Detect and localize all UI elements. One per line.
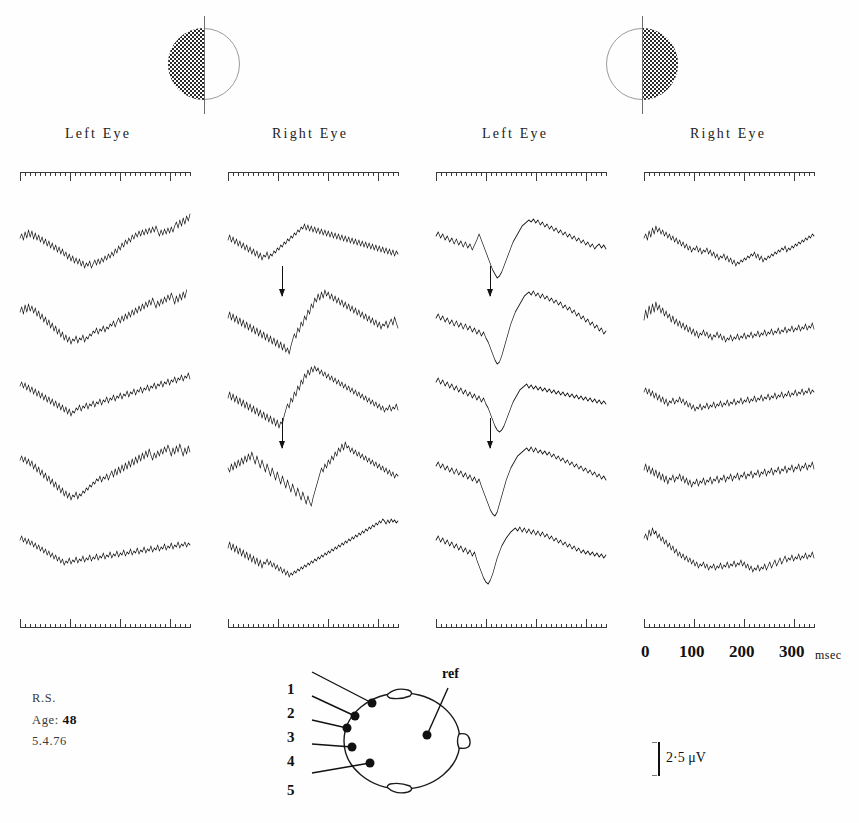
minor-tick [40, 624, 41, 628]
calibration-bar [658, 742, 660, 776]
minor-tick [233, 624, 234, 628]
left-ear-marker [387, 689, 411, 699]
major-tick [328, 619, 329, 628]
minor-tick [649, 624, 650, 628]
minor-tick [481, 624, 482, 628]
figure-canvas: Left Eye Right Eye Left Eye Right Eye 0 … [0, 0, 859, 823]
electrode-dot-4 [348, 743, 357, 752]
minor-tick [343, 624, 344, 628]
minor-tick [461, 624, 462, 628]
minor-tick [561, 624, 562, 628]
minor-tick [368, 624, 369, 628]
minor-tick [769, 624, 770, 628]
major-tick [694, 619, 695, 628]
minor-tick [55, 624, 56, 628]
peak-arrow-c3-r4 [487, 418, 494, 448]
major-tick [278, 619, 279, 628]
minor-tick [704, 624, 705, 628]
minor-tick [338, 624, 339, 628]
major-tick [378, 619, 379, 628]
minor-tick [659, 624, 660, 628]
major-tick [436, 619, 437, 628]
minor-tick [145, 624, 146, 628]
minor-tick [185, 624, 186, 628]
minor-tick [353, 624, 354, 628]
calibration-serif-top [652, 742, 657, 743]
electrode-dot-1 [368, 699, 377, 708]
minor-tick [115, 624, 116, 628]
minor-tick [689, 624, 690, 628]
major-tick [70, 619, 71, 628]
minor-tick [541, 624, 542, 628]
minor-tick [581, 624, 582, 628]
minor-tick [566, 624, 567, 628]
minor-tick [501, 624, 502, 628]
time-ruler-bottom-c2 [228, 612, 398, 628]
minor-tick [25, 624, 26, 628]
minor-tick [799, 624, 800, 628]
minor-tick [165, 624, 166, 628]
minor-tick [75, 624, 76, 628]
minor-tick [491, 624, 492, 628]
minor-tick [441, 624, 442, 628]
minor-tick [388, 624, 389, 628]
minor-tick [253, 624, 254, 628]
time-ruler-bottom-c3 [436, 612, 606, 628]
minor-tick [516, 624, 517, 628]
minor-tick [60, 624, 61, 628]
minor-tick [784, 624, 785, 628]
minor-tick [383, 624, 384, 628]
minor-tick [180, 624, 181, 628]
minor-tick [734, 624, 735, 628]
minor-tick [293, 624, 294, 628]
minor-tick [303, 624, 304, 628]
minor-tick [531, 624, 532, 628]
major-tick [486, 619, 487, 628]
minor-tick [308, 624, 309, 628]
axis-tick-label-100: 100 [679, 642, 705, 662]
minor-tick [654, 624, 655, 628]
peak-arrow-c2-r2 [279, 266, 286, 296]
minor-tick [699, 624, 700, 628]
minor-tick [789, 624, 790, 628]
minor-tick [35, 624, 36, 628]
minor-tick [759, 624, 760, 628]
major-tick [794, 619, 795, 628]
head-electrode-diagram: 1 2 3 4 5 ref [330, 678, 490, 808]
minor-tick [729, 624, 730, 628]
minor-tick [348, 624, 349, 628]
minor-tick [511, 624, 512, 628]
minor-tick [398, 624, 399, 628]
minor-tick [814, 624, 815, 628]
minor-tick [85, 624, 86, 628]
minor-tick [754, 624, 755, 628]
subject-age-value: 48 [62, 712, 77, 727]
electrode-label-5: 5 [287, 782, 295, 799]
electrode-dot-ref [423, 731, 432, 740]
minor-tick [288, 624, 289, 628]
minor-tick [546, 624, 547, 628]
subject-age-label: Age: [32, 713, 59, 727]
minor-tick [190, 624, 191, 628]
major-tick [536, 619, 537, 628]
electrode-label-4: 4 [287, 753, 295, 770]
minor-tick [155, 624, 156, 628]
minor-tick [576, 624, 577, 628]
minor-tick [358, 624, 359, 628]
reference-electrode-label: ref [442, 666, 459, 682]
minor-tick [774, 624, 775, 628]
axis-tick-label-0: 0 [641, 642, 650, 662]
minor-tick [50, 624, 51, 628]
minor-tick [238, 624, 239, 628]
minor-tick [363, 624, 364, 628]
minor-tick [318, 624, 319, 628]
minor-tick [90, 624, 91, 628]
subject-initials: R.S. [32, 688, 77, 709]
major-tick [744, 619, 745, 628]
axis-unit-label: msec [815, 648, 842, 663]
minor-tick [393, 624, 394, 628]
minor-tick [110, 624, 111, 628]
minor-tick [160, 624, 161, 628]
minor-tick [804, 624, 805, 628]
minor-tick [130, 624, 131, 628]
